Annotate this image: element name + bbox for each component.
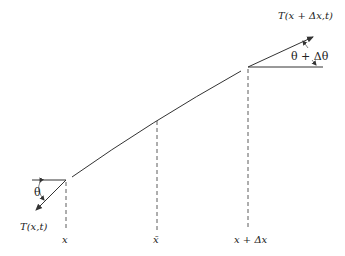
label-angle-right: θ + Δθ [291,50,329,63]
label-x: x [62,234,68,245]
label-x-plus-dx: x + Δx [234,234,268,245]
string-curve [72,71,241,177]
label-tension-left: T(x,t) [20,221,47,232]
right-angle-pointer-upper [303,41,308,48]
label-tension-right: T(x + Δx,t) [278,10,333,21]
label-angle-left: θ [34,186,41,199]
label-x-bar: x̄ [153,234,159,245]
string-element-diagram: T(x + Δx,t) θ + Δθ θ T(x,t) x x̄ x + Δx [0,0,345,256]
